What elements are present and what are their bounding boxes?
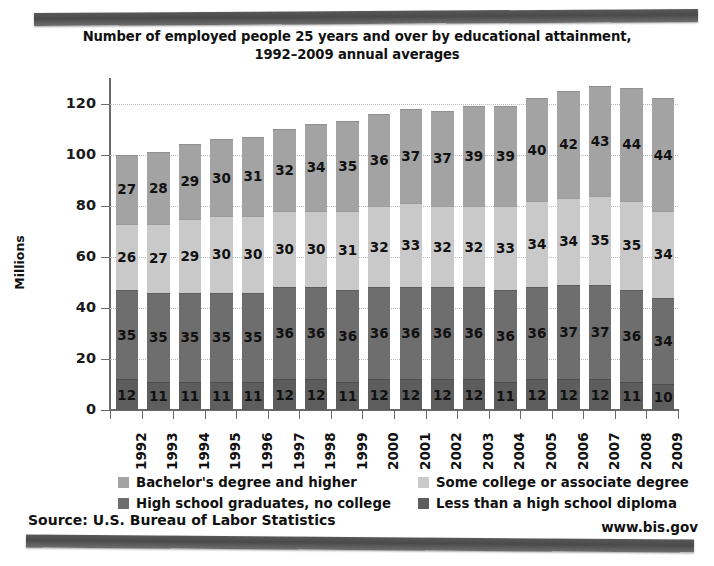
bar-segment: 35 <box>210 293 233 382</box>
bar-segment-value: 12 <box>273 389 296 403</box>
x-tick-label-2004: 2004 <box>511 432 527 470</box>
x-tick-label-1994: 1994 <box>196 432 212 470</box>
bar-2004[interactable]: 39333611 <box>494 106 517 410</box>
chart-title-line1: Number of employed people 25 years and o… <box>83 29 632 44</box>
bar-segment-value: 12 <box>116 389 139 403</box>
bar-segment: 11 <box>147 382 170 410</box>
bar-segment-value: 11 <box>210 390 233 404</box>
bar-segment: 12 <box>273 379 296 410</box>
bar-segment-value: 34 <box>557 235 580 249</box>
bar-segment-value: 28 <box>147 182 170 196</box>
bar-2009[interactable]: 44343410 <box>652 98 675 410</box>
y-axis-title: Millions <box>12 235 27 290</box>
bar-2005[interactable]: 40343612 <box>526 98 549 410</box>
bar-segment: 12 <box>557 379 580 410</box>
bar-1996[interactable]: 31303511 <box>242 137 265 410</box>
bar-segment: 34 <box>652 298 675 385</box>
y-tick-20 <box>101 359 110 360</box>
x-tick-label-1998: 1998 <box>322 432 338 470</box>
x-tick-1996 <box>236 410 237 419</box>
legend-item-high-school[interactable]: High school graduates, no college <box>118 496 418 511</box>
bar-segment: 37 <box>557 285 580 379</box>
x-tick-2005 <box>520 410 521 419</box>
legend-item-some-college[interactable]: Some college or associate degree <box>418 475 689 490</box>
legend-swatch-some-college <box>418 477 429 488</box>
bar-segment: 32 <box>368 206 391 288</box>
bar-segment: 11 <box>494 382 517 410</box>
bar-1994[interactable]: 29293511 <box>179 144 202 410</box>
bar-segment: 36 <box>368 287 391 379</box>
x-tick-label-2006: 2006 <box>575 432 591 470</box>
x-tick-label-2001: 2001 <box>417 432 433 470</box>
bar-segment: 33 <box>400 203 423 287</box>
y-tick-40 <box>101 308 110 309</box>
bar-segment: 12 <box>400 379 423 410</box>
bar-1998[interactable]: 34303612 <box>305 124 328 410</box>
bar-segment: 11 <box>336 382 359 410</box>
bar-2006[interactable]: 42343712 <box>557 91 580 410</box>
x-tick-1995 <box>205 410 206 419</box>
bar-segment: 12 <box>431 379 454 410</box>
x-tick-label-2008: 2008 <box>638 432 654 470</box>
x-tick-label-2003: 2003 <box>480 432 496 470</box>
legend-label-less-than-hs: Less than a high school diploma <box>436 496 677 511</box>
bar-2001[interactable]: 37333612 <box>400 109 423 410</box>
y-tick-label-100: 100 <box>50 146 96 162</box>
bar-segment-value: 11 <box>179 390 202 404</box>
bar-2000[interactable]: 36323612 <box>368 114 391 410</box>
bar-segment: 34 <box>557 198 580 285</box>
bar-segment: 36 <box>336 290 359 382</box>
bar-segment: 36 <box>305 287 328 379</box>
bar-segment-value: 32 <box>273 164 296 178</box>
bar-2002[interactable]: 37323612 <box>431 111 454 410</box>
bar-segment-value: 34 <box>652 335 675 349</box>
bar-segment: 30 <box>305 211 328 288</box>
legend-item-less-than-hs[interactable]: Less than a high school diploma <box>418 496 677 511</box>
bar-segment-value: 12 <box>557 389 580 403</box>
bar-segment-value: 12 <box>400 389 423 403</box>
bar-segment-value: 29 <box>179 250 202 264</box>
bar-segment: 44 <box>652 98 675 210</box>
bar-segment-value: 12 <box>526 389 549 403</box>
bar-segment-value: 42 <box>557 138 580 152</box>
bar-segment: 39 <box>463 106 486 206</box>
bar-segment-value: 33 <box>400 239 423 253</box>
bar-segment: 36 <box>431 287 454 379</box>
x-tick-2006 <box>552 410 553 419</box>
bar-2007[interactable]: 43353712 <box>589 86 612 410</box>
bar-segment: 40 <box>526 98 549 200</box>
bar-1999[interactable]: 35313611 <box>336 121 359 410</box>
bar-segment: 34 <box>526 201 549 288</box>
bar-segment: 32 <box>273 129 296 211</box>
bar-segment-value: 35 <box>620 239 643 253</box>
bar-segment-value: 39 <box>494 150 517 164</box>
x-tick-label-1996: 1996 <box>259 432 275 470</box>
bar-segment: 12 <box>305 379 328 410</box>
bar-segment: 42 <box>557 91 580 198</box>
bar-segment-value: 34 <box>305 161 328 175</box>
decorative-band-top <box>34 9 698 26</box>
y-tick-120 <box>101 104 110 105</box>
x-tick-label-1999: 1999 <box>354 432 370 470</box>
bar-segment-value: 30 <box>305 243 328 257</box>
bar-segment: 27 <box>116 155 139 224</box>
bar-segment: 12 <box>368 379 391 410</box>
bar-2008[interactable]: 44353611 <box>620 88 643 410</box>
bar-segment-value: 30 <box>242 248 265 262</box>
x-tick-2007 <box>583 410 584 419</box>
legend-label-high-school: High school graduates, no college <box>136 496 391 511</box>
bar-1993[interactable]: 28273511 <box>147 152 170 410</box>
bar-segment-value: 31 <box>336 244 359 258</box>
bar-segment: 30 <box>273 211 296 288</box>
bar-segment-value: 36 <box>368 327 391 341</box>
legend-item-bachelors[interactable]: Bachelor's degree and higher <box>118 475 418 490</box>
bar-2003[interactable]: 39323612 <box>463 106 486 410</box>
bar-segment-value: 11 <box>620 390 643 404</box>
bar-1997[interactable]: 32303612 <box>273 129 296 410</box>
bar-segment: 12 <box>116 379 139 410</box>
bar-segment-value: 11 <box>147 390 170 404</box>
bar-segment: 36 <box>494 290 517 382</box>
bar-1992[interactable]: 27263512 <box>116 155 139 410</box>
bar-segment: 37 <box>431 111 454 205</box>
bar-1995[interactable]: 30303511 <box>210 139 233 410</box>
